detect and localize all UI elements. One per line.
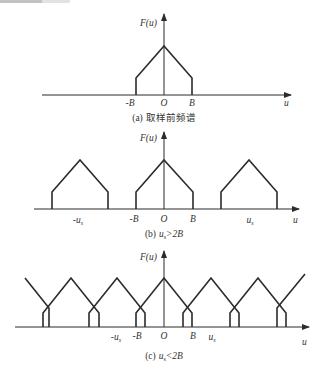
y-axis-label: F(u)	[139, 252, 157, 263]
tick-label-origin: O	[161, 331, 168, 341]
tick-label-b: B	[190, 214, 196, 224]
x-axis-label: u	[293, 215, 298, 225]
tick-label-neg-b: -B	[133, 331, 142, 341]
spectrum-replica	[25, 278, 49, 327]
tick-label-neg-b: -B	[126, 98, 135, 108]
x-axis-label: u	[302, 337, 307, 347]
tick-label-neg-us: -us	[111, 332, 122, 343]
tick-label-b: B	[189, 98, 195, 108]
spectrum-replica	[43, 278, 99, 327]
spectrum-pulse-left	[52, 160, 108, 209]
tick-label-neg-us: -us	[73, 215, 84, 226]
tick-label-origin: O	[161, 98, 168, 108]
figure-canvas: F(u) u -B O B (a)取样前频谱 F(u) u -us -B O B…	[0, 0, 323, 375]
caption-b: (b)us>2B	[145, 229, 183, 240]
y-axis-label: F(u)	[139, 133, 157, 144]
tick-label-origin: O	[161, 214, 168, 224]
spectrum-pulse-right	[221, 160, 277, 209]
caption-a: (a)取样前频谱	[132, 112, 196, 124]
aliased-spectra	[25, 274, 305, 327]
spectrum-replica	[277, 274, 305, 327]
y-axis-label: F(u)	[139, 18, 157, 29]
tick-label-b: B	[190, 331, 196, 341]
caption-c: (c)us<2B	[145, 351, 183, 362]
tick-label-us: us	[208, 332, 216, 343]
x-axis-label: u	[284, 98, 289, 108]
cropped-text-fragment	[0, 0, 70, 3]
tick-label-neg-b: -B	[130, 214, 139, 224]
panel-c: F(u) u -us -B O B us (c)us<2B	[15, 251, 309, 362]
sampling-spectrum-figure: F(u) u -B O B (a)取样前频谱 F(u) u -us -B O B…	[0, 0, 323, 375]
panel-a: F(u) u -B O B (a)取样前频谱	[42, 14, 291, 124]
panel-b: F(u) u -us -B O B us (b)us>2B	[34, 132, 299, 240]
tick-label-us: us	[246, 215, 254, 226]
